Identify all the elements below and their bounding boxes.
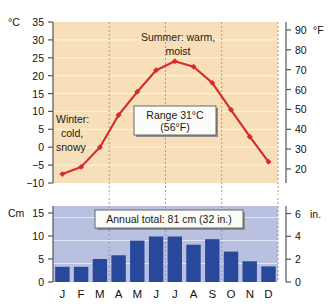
bar-may (130, 241, 144, 282)
svg-text:S: S (208, 288, 216, 300)
svg-text:O: O (227, 288, 236, 300)
bar-sep (205, 239, 219, 282)
svg-text:Summer: warm,: Summer: warm, (141, 31, 215, 43)
svg-text:60: 60 (295, 84, 307, 96)
bar-feb (74, 267, 88, 282)
precipitation-left-unit-label: Cm (8, 207, 25, 219)
precipitation-right-unit-label: in. (310, 208, 321, 220)
svg-text:5: 5 (38, 123, 44, 135)
svg-text:25: 25 (32, 52, 44, 64)
bar-jan (55, 267, 69, 282)
temperature-left-unit-label: °C (8, 16, 20, 28)
svg-text:N: N (246, 288, 254, 300)
svg-text:4: 4 (295, 230, 301, 242)
svg-text:A: A (115, 288, 123, 300)
annual-total-callout: Annual total: 81 cm (32 in.) (95, 210, 245, 230)
svg-text:6: 6 (295, 208, 301, 220)
svg-text:10: 10 (32, 230, 44, 242)
svg-text:0: 0 (38, 276, 44, 288)
svg-text:moist: moist (165, 45, 190, 57)
svg-text:D: D (264, 288, 272, 300)
svg-text:5: 5 (38, 253, 44, 265)
temperature-range-callout: Range 31°C (56°F) (134, 106, 218, 137)
svg-text:cold,: cold, (61, 127, 83, 139)
svg-text:80: 80 (295, 44, 307, 56)
bar-jul (168, 237, 182, 283)
svg-text:Winter:: Winter: (56, 113, 89, 125)
bar-aug (186, 245, 200, 282)
svg-text:Range 31°C: Range 31°C (146, 109, 204, 121)
svg-text:15: 15 (32, 88, 44, 100)
svg-text:A: A (190, 288, 198, 300)
bar-dec (261, 266, 275, 282)
svg-text:70: 70 (295, 64, 307, 76)
svg-text:15: 15 (32, 207, 44, 219)
svg-text:snowy: snowy (56, 141, 87, 153)
svg-text:J: J (60, 288, 66, 300)
svg-text:0: 0 (38, 141, 44, 153)
svg-text:2: 2 (295, 253, 301, 265)
svg-text:−5: −5 (32, 159, 44, 171)
svg-text:M: M (95, 288, 105, 300)
svg-text:J: J (172, 288, 178, 300)
svg-text:30: 30 (32, 34, 44, 46)
svg-text:0: 0 (295, 276, 301, 288)
bar-nov (243, 261, 257, 282)
svg-text:90: 90 (295, 24, 307, 36)
bar-oct (224, 252, 238, 282)
svg-text:−10: −10 (26, 177, 44, 189)
bar-jun (149, 237, 163, 283)
svg-text:35: 35 (32, 16, 44, 28)
svg-text:(56°F): (56°F) (160, 121, 189, 133)
bar-apr (111, 255, 125, 282)
svg-text:10: 10 (32, 105, 44, 117)
svg-text:J: J (153, 288, 159, 300)
svg-text:30: 30 (295, 143, 307, 155)
svg-text:20: 20 (32, 70, 44, 82)
temperature-right-unit-label: °F (313, 24, 324, 36)
svg-text:40: 40 (295, 123, 307, 135)
svg-text:50: 50 (295, 103, 307, 115)
bar-mar (93, 259, 107, 282)
svg-text:M: M (133, 288, 143, 300)
annual-total-text: Annual total: 81 cm (32 in.) (106, 213, 231, 225)
climograph-figure: °C 35 30 25 20 15 10 5 0 −5 −10 90 (0, 0, 330, 307)
temperature-panel: °C 35 30 25 20 15 10 5 0 −5 −10 90 (8, 16, 324, 195)
svg-text:F: F (78, 288, 85, 300)
svg-text:20: 20 (295, 163, 307, 175)
